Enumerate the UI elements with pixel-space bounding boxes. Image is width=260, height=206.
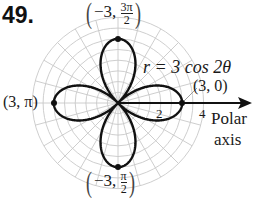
label-top-point: (−3, 3π2)	[84, 0, 143, 28]
problem-number: 49.	[2, 2, 34, 29]
axis-label-axis: axis	[214, 131, 241, 148]
point-3-pi	[51, 100, 57, 106]
frac-num: 3π	[121, 1, 133, 13]
frac-den: 2	[124, 14, 130, 26]
fraction-bottom: π2	[121, 170, 127, 195]
label-point-3-0: (3, 0)	[193, 78, 228, 94]
equation-label: r = 3 cos 2θ	[143, 58, 231, 76]
polar-graph: 49. (−3, 3π2) r = 3 cos 2θ (3, 0) (3, π)…	[0, 0, 260, 206]
paren-close: )	[129, 167, 135, 197]
fraction-top: 3π2	[121, 1, 133, 26]
tick-label-2: 2	[156, 107, 163, 120]
paren-open: (	[86, 167, 92, 197]
point-neg3-3pi2	[115, 36, 121, 42]
frac-den: 2	[121, 183, 127, 195]
paren-open: (	[86, 0, 92, 28]
tick-label-4: 4	[199, 107, 206, 120]
label-bottom-r: −3,	[94, 171, 116, 190]
frac-num: π	[121, 170, 127, 182]
axis-label-polar: Polar	[211, 110, 247, 127]
label-point-3-pi: (3, π)	[3, 94, 38, 110]
label-top-r: −3,	[94, 2, 116, 21]
label-bottom-point: (−3, π2)	[84, 167, 137, 197]
point-3-0	[179, 100, 185, 106]
paren-close: )	[135, 0, 141, 28]
